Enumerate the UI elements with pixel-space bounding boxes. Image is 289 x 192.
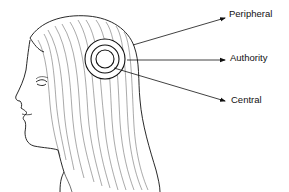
arrow-central [114,68,225,101]
label-authority: Authority [230,52,268,63]
diagram-canvas: Peripheral Authority Central [0,0,289,192]
concentric-circles [85,39,125,79]
arrows [114,18,225,101]
face-profile [16,40,72,192]
arrow-peripheral [133,18,225,45]
label-central: Central [231,94,262,105]
label-peripheral: Peripheral [229,8,272,19]
